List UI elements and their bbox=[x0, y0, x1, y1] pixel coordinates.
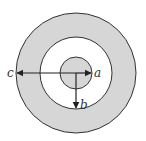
label-a: a bbox=[94, 66, 101, 80]
concentric-circles-diagram: a b c bbox=[0, 0, 146, 141]
label-b: b bbox=[80, 98, 88, 112]
diagram-canvas: a b c bbox=[0, 0, 146, 141]
label-c: c bbox=[7, 66, 14, 80]
